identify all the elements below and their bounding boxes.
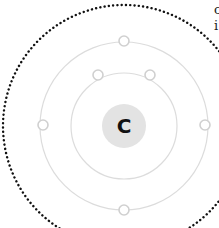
cropped-text-fragment: c [214, 3, 219, 16]
cropped-text-fragment: i [214, 19, 218, 32]
electron [145, 70, 155, 80]
electron [200, 120, 210, 130]
electron [119, 205, 129, 215]
electron [38, 120, 48, 130]
element-symbol: C [117, 114, 132, 138]
carbon-atom-diagram: C [0, 0, 219, 228]
electron [119, 36, 129, 46]
inner-electrons [93, 70, 155, 80]
electron [93, 70, 103, 80]
nucleus: C [102, 104, 146, 148]
